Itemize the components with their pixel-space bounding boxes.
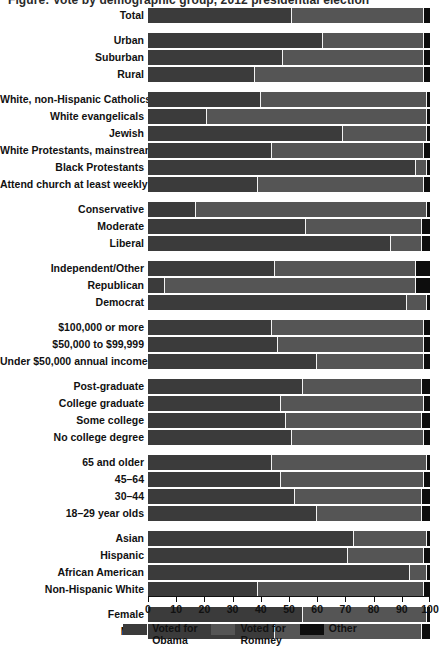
bar-segment-other (424, 177, 430, 192)
bar-row-label: White Protestants, mainstream (0, 145, 148, 156)
stacked-bar (148, 33, 430, 48)
bar-segment-obama (148, 379, 303, 394)
bar-segment-obama (148, 109, 207, 124)
stacked-bar (148, 489, 430, 504)
bar-segment-romney (416, 160, 427, 175)
bar-segment-other (416, 278, 430, 293)
bar-row: Liberal (0, 236, 440, 251)
bar-segment-romney (281, 472, 425, 487)
stacked-bar (148, 143, 430, 158)
bar-row-label: Democrat (0, 297, 148, 308)
x-axis-tick-labels: 0102030405060708090100 (148, 603, 430, 617)
stacked-bar (148, 582, 430, 597)
bar-segment-obama (148, 337, 278, 352)
x-axis-tick (204, 597, 205, 602)
bar-segment-romney (354, 531, 427, 546)
bar-row: White, non-Hispanic Catholics (0, 92, 440, 107)
bar-segment-obama (148, 295, 407, 310)
bar-group-income: $100,000 or more$50,000 to $99,999Under … (0, 320, 440, 369)
x-axis-tick-label: 70 (340, 603, 352, 615)
bar-row: 30–44 (0, 489, 440, 504)
bar-row-label: White, non-Hispanic Catholics (0, 94, 148, 105)
bar-segment-obama (148, 143, 272, 158)
bar-segment-obama (148, 219, 306, 234)
stacked-bar (148, 177, 430, 192)
bar-row: Democrat (0, 295, 440, 310)
bar-segment-other (424, 354, 430, 369)
bar-segment-obama (148, 50, 283, 65)
bar-segment-romney (272, 320, 424, 335)
bar-segment-romney (258, 177, 424, 192)
bar-segment-obama (148, 8, 292, 23)
bar-segment-obama (148, 320, 272, 335)
stacked-bar (148, 548, 430, 563)
bar-segment-other (427, 531, 430, 546)
bar-row: Asian (0, 531, 440, 546)
bar-segment-romney (286, 413, 421, 428)
x-axis-tick (176, 597, 177, 602)
bar-row-label: Liberal (0, 238, 148, 249)
bar-row-label: $50,000 to $99,999 (0, 339, 148, 350)
bar-row-label: 30–44 (0, 491, 148, 502)
legend-item-other: Other (300, 623, 357, 646)
bar-segment-obama (148, 177, 258, 192)
bar-row-label: Post-graduate (0, 381, 148, 392)
bar-segment-romney (207, 109, 427, 124)
bar-row-label: Republican (0, 280, 148, 291)
bar-row: No college degree (0, 430, 440, 445)
bar-segment-other (422, 489, 430, 504)
x-axis-tick-label: 60 (311, 603, 323, 615)
bar-segment-obama (148, 531, 354, 546)
legend-swatch-romney-icon (211, 624, 235, 635)
bar-segment-other (424, 472, 430, 487)
bar-segment-obama (148, 582, 258, 597)
bar-row-label: Jewish (0, 128, 148, 139)
bar-group-party-id: Independent/OtherRepublicanDemocrat (0, 261, 440, 310)
x-axis-tick (233, 597, 234, 602)
legend-swatch-obama-icon (123, 624, 147, 635)
bar-segment-obama (148, 160, 416, 175)
x-axis-tick-label: 90 (396, 603, 408, 615)
bar-row-label: Independent/Other (0, 263, 148, 274)
x-axis-tick (345, 597, 346, 602)
bar-row-label: Conservative (0, 204, 148, 215)
bar-segment-obama (148, 354, 317, 369)
legend-label: Voted for Romney (240, 623, 285, 646)
bar-group-ideology: ConservativeModerateLiberal (0, 202, 440, 251)
bar-segment-obama (148, 92, 261, 107)
bar-row: Black Protestants (0, 160, 440, 175)
stacked-bar (148, 109, 430, 124)
stacked-bar (148, 455, 430, 470)
bar-segment-romney (255, 67, 424, 82)
stacked-bar (148, 50, 430, 65)
bar-segment-obama (148, 413, 286, 428)
bar-segment-other (416, 261, 430, 276)
chart-legend: Voted for ObamaVoted for RomneyOther (0, 623, 440, 646)
bar-row-label: No college degree (0, 432, 148, 443)
bar-segment-other (427, 126, 430, 141)
bar-row: Attend church at least weekly (0, 177, 440, 192)
bar-segment-other (427, 565, 430, 580)
bar-row: Some college (0, 413, 440, 428)
bar-segment-obama (148, 472, 281, 487)
bar-row-label: 18–29 year olds (0, 508, 148, 519)
bar-group-religion: White, non-Hispanic CatholicsWhite evang… (0, 92, 440, 192)
stacked-bar (148, 320, 430, 335)
stacked-bar (148, 531, 430, 546)
bar-segment-romney (272, 143, 424, 158)
bar-segment-other (427, 160, 430, 175)
bar-segment-romney (196, 202, 427, 217)
bar-row: African American (0, 565, 440, 580)
bar-row-label: Urban (0, 35, 148, 46)
bar-segment-other (427, 455, 430, 470)
bar-segment-romney (391, 236, 422, 251)
bar-segment-obama (148, 67, 255, 82)
bar-segment-romney (317, 354, 424, 369)
bar-segment-romney (275, 261, 416, 276)
legend-label: Other (329, 623, 357, 635)
bar-segment-other (422, 236, 430, 251)
bar-segment-obama (148, 455, 272, 470)
stacked-bar (148, 8, 430, 23)
bar-segment-romney (261, 92, 427, 107)
bar-row-label: College graduate (0, 398, 148, 409)
